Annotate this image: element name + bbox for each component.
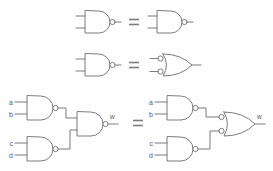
input-inversion-bubble-icon xyxy=(219,114,224,119)
output-inversion-bubble-icon xyxy=(53,146,58,151)
input-label-a-left: a xyxy=(9,99,13,106)
input-label-b-left: b xyxy=(9,111,13,118)
input-label-c-right: c xyxy=(150,140,154,147)
input-inversion-bubble-icon xyxy=(219,128,224,133)
input-label-a-right: a xyxy=(149,99,153,106)
output-inversion-bubble-icon xyxy=(103,121,108,126)
logic-diagram-canvas: a b c d w xyxy=(0,0,273,171)
output-inversion-bubble-icon xyxy=(193,105,198,110)
input-label-d-left: d xyxy=(9,152,13,159)
output-inversion-bubble-icon xyxy=(193,146,198,151)
input-inversion-bubble-icon xyxy=(158,69,163,74)
logic-diagram: a b c d w xyxy=(0,0,273,171)
input-label-b-right: b xyxy=(149,111,153,118)
output-inversion-bubble-icon xyxy=(53,105,58,110)
output-inversion-bubble-icon xyxy=(110,19,115,24)
input-inversion-bubble-icon xyxy=(158,56,163,61)
output-label-w-left: w xyxy=(109,113,115,120)
output-inversion-bubble-icon xyxy=(182,19,187,24)
input-label-c-left: c xyxy=(10,140,14,147)
input-label-d-right: d xyxy=(149,152,153,159)
output-inversion-bubble-icon xyxy=(110,62,115,67)
canvas-background xyxy=(0,0,273,171)
output-label-w-right: w xyxy=(256,113,262,120)
